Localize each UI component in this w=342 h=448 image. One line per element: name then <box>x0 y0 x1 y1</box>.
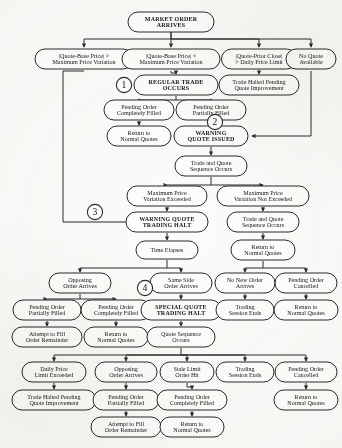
node-label-line: Stale Limit <box>173 366 201 372</box>
node-label-line: Quote Improvement <box>29 400 79 406</box>
edge-n6-to-n8 <box>139 96 176 100</box>
edge-n19-to-n23 <box>47 294 80 299</box>
node-label-line: Time Elapses <box>151 247 184 253</box>
node-label-line: Trade and Quote <box>191 160 232 166</box>
node-label-line: Pending Order <box>288 366 324 372</box>
node-label-line: Maximum Price <box>243 190 283 196</box>
step-marker-label: 1 <box>122 79 127 90</box>
node-label-line: Same Side <box>168 277 194 283</box>
node-label-line: Maximum Price Variation <box>139 59 202 65</box>
node-n14[interactable]: Maximum PriceVariation Not Exceeded <box>217 186 309 206</box>
node-label-line: |Quote-Base Price| < <box>146 53 197 59</box>
node-n17[interactable]: Time Elapses <box>136 241 198 259</box>
node-n13[interactable]: Maximum PriceVariation Exceeded <box>127 186 207 206</box>
node-label-line: Order Arrives <box>63 283 97 289</box>
node-n16[interactable]: Trade and QuoteSequence Occurs <box>227 212 299 232</box>
edge-n1-to-n5 <box>171 39 311 47</box>
node-label-line: Sequence Occurs <box>242 222 285 228</box>
node-label-line: No New Order <box>227 277 263 283</box>
node-label-line: Return to <box>295 394 318 400</box>
node-label-line: Pending Order <box>108 394 144 400</box>
node-label-line: Completely Filled <box>170 400 214 406</box>
node-n36[interactable]: Trade Halted PendingQuote Improvement <box>12 390 96 410</box>
node-n15[interactable]: WARNING QUOTETRADING HALT <box>126 212 208 232</box>
node-label-line: Return to <box>181 421 204 427</box>
node-n28[interactable]: Attempt to FillOrder Remainder <box>12 327 82 347</box>
node-label-line: Trade Halted Pending <box>232 79 285 85</box>
node-label-line: Variation Exceeded <box>143 196 191 202</box>
node-n38[interactable]: Pending OrderCompletely Filled <box>157 390 227 410</box>
node-n31[interactable]: Daily PriceLimit Exceeded <box>22 362 86 382</box>
node-n19[interactable]: OpposingOrder Arrives <box>49 273 111 293</box>
node-n32[interactable]: OpposingOrder Arrives <box>95 362 157 382</box>
node-n18[interactable]: Return toNormal Quotes <box>231 240 295 260</box>
node-n12[interactable]: Trade and QuoteSequence Occurs <box>175 156 247 176</box>
node-label-line: Variation Not Exceeded <box>234 196 292 202</box>
node-n26[interactable]: TradingSession Ends <box>216 300 274 320</box>
node-n21[interactable]: No New OrderArrives <box>215 273 275 293</box>
node-n34[interactable]: TradingSession Ends <box>216 362 274 382</box>
node-n1[interactable]: MARKET ORDERARRIVES <box>128 12 214 32</box>
node-label-line: Order Remainder <box>105 427 147 433</box>
node-n6[interactable]: REGULAR TRADEOCCURS <box>134 75 218 95</box>
node-label-line: Pending Order <box>98 304 134 310</box>
edge-n18-to-n22 <box>263 268 306 272</box>
node-label-line: Opposing <box>114 366 138 372</box>
node-label-line: Quote Sequence <box>161 331 201 337</box>
node-n30[interactable]: Quote SequenceOccurs <box>147 327 215 347</box>
node-label-line: Normal Quotes <box>287 400 325 406</box>
node-label-line: Pending Order <box>193 104 229 110</box>
node-label-line: Return to <box>295 304 318 310</box>
node-label-line: Maximum Price <box>147 190 187 196</box>
node-n41[interactable]: Return toNormal Quotes <box>160 417 224 437</box>
edge-n17-to-n20 <box>167 268 181 272</box>
node-label-line: Normal Quotes <box>173 427 211 433</box>
node-label-line: TRADING HALT <box>157 310 206 316</box>
node-n5[interactable]: No QuoteAvailable <box>286 49 336 69</box>
node-n27[interactable]: Return toNormal Quotes <box>274 300 338 320</box>
node-label-line: Pending Order <box>174 394 210 400</box>
flowchart-canvas: MARKET ORDERARRIVES|Quote-Base Price| >M… <box>0 0 342 448</box>
node-n8[interactable]: Pending OrderCompletely Filled <box>104 100 174 120</box>
node-n25[interactable]: SPECIAL QUOTETRADING HALT <box>141 300 221 320</box>
node-n7[interactable]: Trade Halted PendingQuote Improvement <box>219 75 299 95</box>
node-label-line: Cancelled <box>294 372 318 378</box>
node-label-line: TRADING HALT <box>143 222 192 228</box>
node-label-line: QUOTE ISSUED <box>187 136 235 142</box>
node-n2[interactable]: |Quote-Base Price| >Maximum Price Variat… <box>35 49 133 69</box>
node-label-line: Normal Quotes <box>97 337 135 343</box>
step-marker-label: 3 <box>93 206 98 217</box>
node-label-line: SPECIAL QUOTE <box>155 304 206 310</box>
edge-n17-to-n19 <box>80 260 167 272</box>
node-label-line: OCCURS <box>163 85 190 91</box>
node-label-line: Session Ends <box>229 310 262 316</box>
node-label-line: Trading <box>235 304 254 310</box>
step-marker-label: 4 <box>143 282 148 293</box>
node-n35[interactable]: Pending OrderCancelled <box>275 362 337 382</box>
step-marker-3: 3 <box>87 204 102 219</box>
node-label-line: Completely Filled <box>117 110 161 116</box>
node-label-line: |Quote-Base Price| > <box>59 53 110 59</box>
node-label-line: Attempt to Fill <box>108 421 145 427</box>
edge-n33-to-n38 <box>187 383 192 389</box>
node-label-line: Pending Order <box>288 277 324 283</box>
node-label-line: MARKET ORDER <box>145 16 198 22</box>
node-n10[interactable]: Return toNormal Quotes <box>107 126 171 146</box>
node-n23[interactable]: Pending OrderPartially Filled <box>13 300 81 320</box>
node-label-line: REGULAR TRADE <box>149 79 204 85</box>
node-n4[interactable]: |Quote-Prior Close|> Daily Price Limit <box>222 49 297 69</box>
node-label-line: Normal Quotes <box>244 250 282 256</box>
node-n39[interactable]: Return toNormal Quotes <box>274 390 338 410</box>
node-label-line: Trade and Quote <box>243 216 284 222</box>
node-n33[interactable]: Stale LimitOrder Hit <box>160 362 214 382</box>
node-n20[interactable]: Same SideOrder Arrives <box>150 273 212 293</box>
node-n40[interactable]: Attempt to FillOrder Remainder <box>91 417 161 437</box>
node-n37[interactable]: Pending OrderPartially Filled <box>93 390 159 410</box>
edge-n30-to-n32 <box>126 355 181 361</box>
node-n22[interactable]: Pending OrderCancelled <box>275 273 337 293</box>
node-n29[interactable]: Return toNormal Quotes <box>84 327 148 347</box>
step-marker-label: 2 <box>213 116 218 127</box>
node-label-line: Limit Exceeded <box>35 372 74 378</box>
edge-n1-to-n2 <box>84 32 171 47</box>
node-n3[interactable]: |Quote-Base Price| <Maximum Price Variat… <box>122 49 220 69</box>
